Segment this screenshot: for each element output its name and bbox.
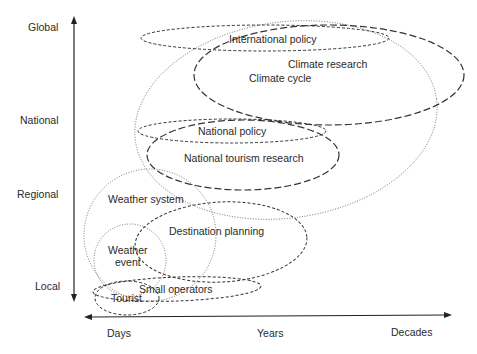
tourist-label: Tourist bbox=[111, 292, 142, 304]
weather-system-label: Weather system bbox=[108, 193, 184, 205]
small-operators-label: Small operators bbox=[139, 283, 213, 295]
y-label-regional: Regional bbox=[17, 188, 58, 200]
y-label-national: National bbox=[20, 114, 59, 126]
x-label-days: Days bbox=[107, 327, 131, 339]
scale-diagram: Global National Regional Local Days Year… bbox=[0, 0, 477, 354]
national-policy-label: National policy bbox=[198, 125, 267, 137]
destination-planning-label: Destination planning bbox=[169, 225, 264, 237]
international-policy-label: International policy bbox=[229, 33, 317, 45]
y-label-global: Global bbox=[28, 21, 58, 33]
national-tourism-research-label: National tourism research bbox=[184, 152, 304, 164]
weather-event-label-line2: event bbox=[115, 256, 141, 268]
y-label-local: Local bbox=[35, 280, 60, 292]
x-label-decades: Decades bbox=[391, 326, 432, 338]
destination-planning-ellipse bbox=[133, 198, 309, 287]
x-label-years: Years bbox=[257, 327, 283, 339]
climate-cycle-label: Climate cycle bbox=[249, 72, 312, 84]
climate-research-label: Climate research bbox=[288, 58, 368, 70]
weather-event-label-line1: Weather bbox=[108, 244, 148, 256]
x-axis-arrow bbox=[88, 315, 448, 317]
